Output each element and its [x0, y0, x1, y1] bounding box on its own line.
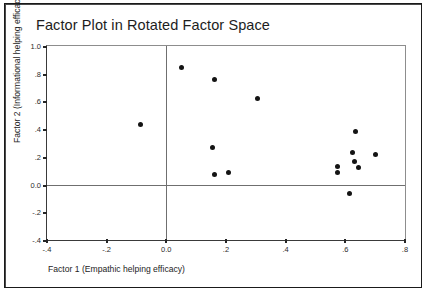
y-axis-tick	[43, 212, 47, 214]
scatter-point	[255, 96, 260, 101]
y-axis-tick-label: .2	[35, 152, 41, 161]
scatter-point	[347, 191, 352, 196]
x-axis-tick	[106, 239, 108, 243]
x-axis-tick-label: .4	[283, 245, 289, 254]
y-axis-tick-label: .6	[35, 97, 41, 106]
scatter-point	[335, 164, 340, 169]
reference-line-vertical	[166, 46, 167, 240]
x-axis-tick-label: -.4	[43, 245, 52, 254]
y-axis-tick-label: .8	[35, 69, 41, 78]
plot-area: 1.0.8.6.4.20.0-.2-.4 -.4-.20.0.2.4.6.8	[46, 45, 406, 241]
x-axis-tick-label: 0.0	[161, 245, 171, 254]
scatter-point	[373, 152, 378, 157]
y-axis-tick-label: .4	[35, 125, 41, 134]
x-axis-tick	[225, 239, 227, 243]
y-axis-tick	[43, 185, 47, 187]
page-title: Factor Plot in Rotated Factor Space	[36, 17, 270, 33]
x-axis-tick-label: .6	[342, 245, 348, 254]
scatter-point	[212, 172, 217, 177]
y-axis-tick	[43, 46, 47, 48]
x-axis-tick	[404, 239, 406, 243]
x-axis-tick	[46, 239, 48, 243]
x-axis-tick-label: -.2	[102, 245, 111, 254]
y-axis-tick	[43, 157, 47, 159]
y-axis-tick	[43, 129, 47, 131]
x-axis-tick	[285, 239, 287, 243]
scatter-point	[353, 129, 358, 134]
x-axis-tick	[165, 239, 167, 243]
y-axis-tick	[43, 101, 47, 103]
scatter-point	[226, 170, 231, 175]
scatter-point	[350, 150, 355, 155]
y-axis-tick-label: 1.0	[31, 42, 41, 51]
y-axis-tick	[43, 74, 47, 76]
scatter-point	[352, 159, 357, 164]
x-axis-tick-label: .2	[223, 245, 229, 254]
figure-canvas: Factor Plot in Rotated Factor Space Fact…	[0, 0, 426, 293]
scatter-point	[179, 65, 184, 70]
y-axis-tick-label: -.2	[32, 208, 41, 217]
x-axis-title: Factor 1 (Empathic helping efficacy)	[48, 264, 185, 274]
scatter-point	[212, 77, 217, 82]
x-axis-tick-label: .8	[402, 245, 408, 254]
y-axis-tick-label: -.4	[32, 236, 41, 245]
scatter-point	[356, 165, 361, 170]
x-axis-tick	[344, 239, 346, 243]
y-axis-title: Factor 2 (Informational helping efficacy…	[12, 0, 22, 143]
scatter-point	[138, 122, 143, 127]
reference-line-horizontal	[47, 185, 405, 186]
y-axis-tick-label: 0.0	[31, 180, 41, 189]
scatter-point	[210, 145, 215, 150]
scatter-point	[335, 170, 340, 175]
